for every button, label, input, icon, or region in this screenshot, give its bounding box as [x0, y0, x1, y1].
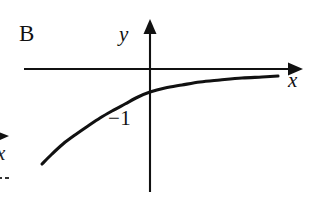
panel-label: B: [19, 22, 35, 45]
y-axis-label: y: [119, 24, 128, 45]
fragment-x-axis-label: x: [0, 143, 5, 164]
curve-b-path: [42, 76, 278, 164]
graph-canvas: [0, 0, 309, 217]
figure-container: B y x −1 x: [0, 0, 309, 217]
y-axis-arrow-icon: [144, 19, 157, 34]
tick-label-neg-one: −1: [108, 108, 131, 129]
x-axis-label: x: [288, 70, 297, 91]
